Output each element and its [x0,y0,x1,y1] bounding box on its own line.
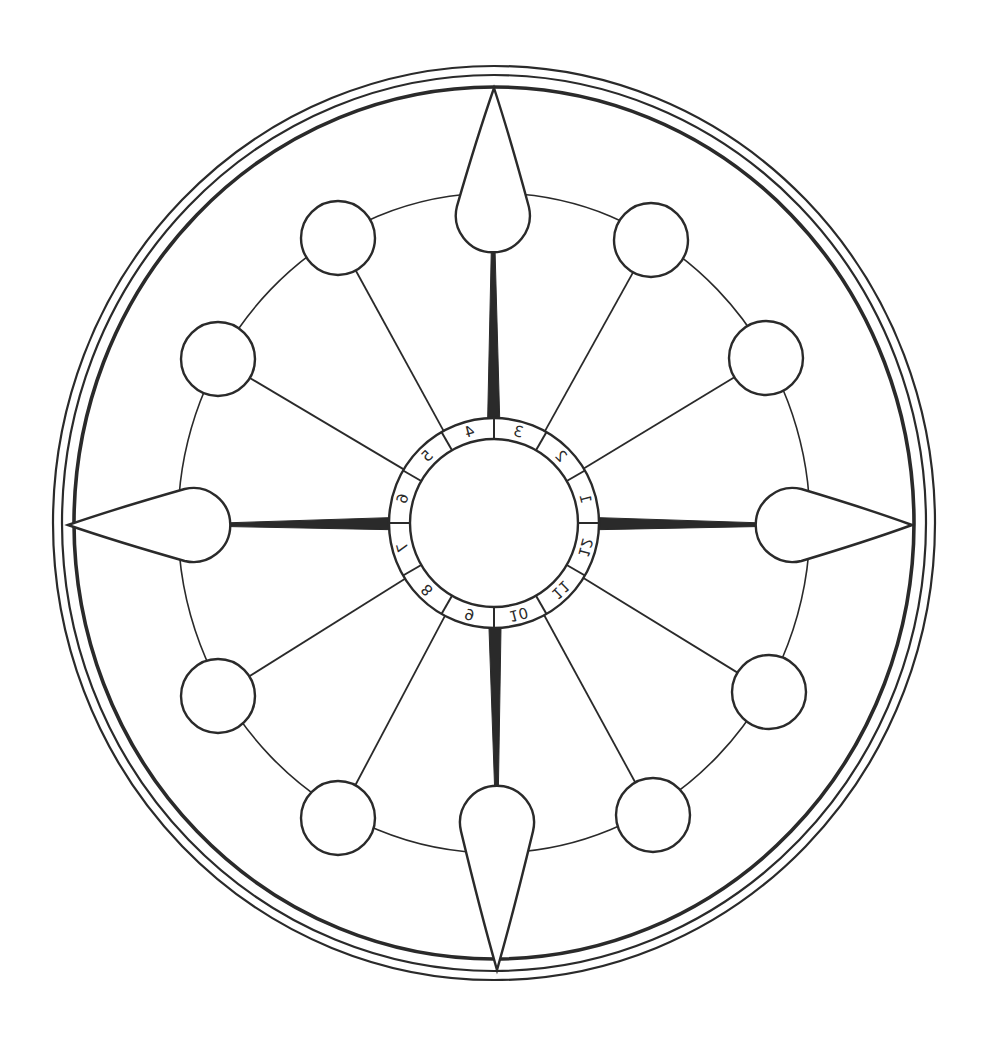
teardrop-bottom [460,786,534,970]
thin-spoke [355,616,445,785]
circle-node-2 [729,321,803,395]
hub-inner-circle [410,439,578,607]
main-spoke [489,628,501,803]
circle-node-4 [616,778,690,852]
thin-spoke [545,272,633,431]
thin-spoke [356,270,444,430]
circle-node-7 [181,322,255,396]
teardrop-top [456,88,530,252]
main-spoke [213,518,389,530]
thin-spoke [249,579,405,677]
circle-node-3 [732,655,806,729]
thin-spoke [250,378,404,469]
hub-ring: 123456789101112 [389,418,599,628]
compass-wheel-diagram: 123456789101112 [0,0,987,1037]
circle-node-5 [301,781,375,855]
wheel-svg: 123456789101112 [0,0,987,1037]
main-spoke [488,235,500,418]
teardrop-right [756,488,912,562]
thin-spoke [583,578,737,673]
thin-spoke [584,377,735,468]
circle-node-6 [181,659,255,733]
teardrop-left [68,488,230,562]
thin-spoke [544,615,635,782]
circle-node-1 [614,203,688,277]
circle-node-8 [301,201,375,275]
main-spoke [599,518,773,530]
